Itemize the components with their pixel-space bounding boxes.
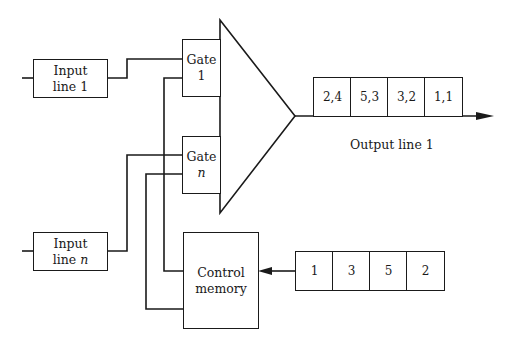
input-line-n-word: line [53, 252, 76, 267]
gate-1-label-a: Gate [187, 52, 217, 68]
input-line-1-label-b: line 1 [53, 79, 88, 95]
output-cell: 3,2 [387, 77, 426, 117]
gate-1-label-b: 1 [198, 68, 206, 84]
input-line-1-box: Input line 1 [33, 59, 108, 98]
output-cell: 2,4 [313, 77, 352, 117]
input-line-n-var: n [80, 252, 88, 267]
gate-1-box: Gate 1 [182, 39, 221, 97]
gate-n-box: Gate n [182, 136, 221, 194]
control-cell: 3 [332, 251, 371, 291]
input-line-n-box: Input line n [33, 232, 108, 271]
control-cell: 5 [369, 251, 408, 291]
output-line-label: Output line 1 [350, 137, 434, 152]
input-line-n-label-b: line n [53, 252, 89, 268]
output-arrowhead-icon [476, 112, 494, 120]
control-cell: 2 [406, 251, 445, 291]
input-line-1-label-a: Input [53, 63, 87, 79]
control-memory-label-b: memory [195, 281, 247, 297]
input-line-n-label-a: Input [53, 236, 87, 252]
control-cell: 1 [295, 251, 334, 291]
gate-n-label-a: Gate [187, 149, 217, 165]
output-cell: 5,3 [350, 77, 389, 117]
control-memory-box: Control memory [183, 232, 259, 329]
control-memory-label-a: Control [197, 265, 245, 281]
output-cell: 1,1 [424, 77, 463, 117]
gate-n-label-b: n [197, 165, 205, 181]
control-arrowhead-icon [258, 267, 272, 275]
